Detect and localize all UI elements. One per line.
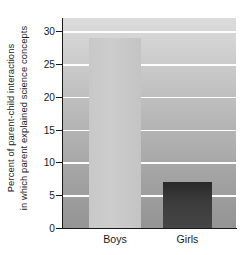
plot-area (63, 18, 236, 228)
bar-chart: Percent of parent-child interactions in … (0, 0, 246, 255)
y-axis-line (62, 18, 63, 229)
y-tick-label: 5 (33, 190, 55, 201)
y-tick-label: 30 (33, 26, 55, 37)
y-tick-label: 0 (33, 223, 55, 234)
y-axis-title-line-1: Percent of parent-child interactions (5, 44, 16, 192)
y-tick-label: 10 (33, 157, 55, 168)
y-tick-label: 25 (33, 58, 55, 69)
x-axis-label-girls: Girls (177, 233, 199, 245)
y-axis-title: Percent of parent-child interactions in … (0, 0, 34, 236)
y-tick-label: 20 (33, 91, 55, 102)
gridline (63, 31, 236, 33)
y-axis-tick-labels: 30 25 20 15 10 5 0 (33, 0, 55, 255)
y-axis-title-line-2: in which parent explained science concep… (18, 26, 29, 211)
x-axis-label-boys: Boys (103, 233, 127, 245)
x-axis-line (56, 228, 237, 229)
bar-girls (163, 182, 212, 228)
bar-boys (89, 38, 141, 228)
y-tick-label: 15 (33, 124, 55, 135)
